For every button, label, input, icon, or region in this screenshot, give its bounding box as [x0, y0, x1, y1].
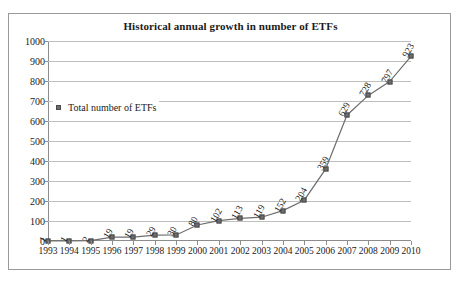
x-axis-tick-label: 1993: [39, 246, 58, 256]
x-axis-tick-mark: [326, 241, 327, 245]
x-axis-tick-mark: [197, 241, 198, 245]
x-axis-tick-label: 1994: [60, 246, 79, 256]
y-axis-tick-label: 400: [11, 156, 45, 167]
x-axis-tick-label: 2008: [359, 246, 378, 256]
y-axis-tick-label: 700: [11, 96, 45, 107]
chart-title: Historical annual growth in number of ET…: [9, 20, 452, 32]
x-axis-tick-label: 2000: [188, 246, 207, 256]
x-axis-tick-label: 2005: [295, 246, 314, 256]
x-axis-tick-mark: [390, 241, 391, 245]
chart-legend: Total number of ETFs: [53, 101, 159, 114]
x-axis-tick-mark: [240, 241, 241, 245]
x-axis-tick-label: 1997: [124, 246, 143, 256]
y-axis-tick-label: 1000: [11, 36, 45, 47]
y-axis-tick-label: 600: [11, 116, 45, 127]
x-axis-tick-label: 2001: [209, 246, 228, 256]
x-axis-tick-mark: [283, 241, 284, 245]
x-axis-tick-mark: [133, 241, 134, 245]
y-axis-tick-label: 300: [11, 176, 45, 187]
x-axis-tick-mark: [91, 241, 92, 245]
x-axis-tick-mark: [69, 241, 70, 245]
x-axis-tick-mark: [368, 241, 369, 245]
x-axis-tick-mark: [48, 241, 49, 245]
chart-figure: Historical annual growth in number of ET…: [8, 13, 451, 270]
x-axis-tick-mark: [176, 241, 177, 245]
legend-item-label: Total number of ETFs: [68, 102, 156, 113]
x-axis-tick-mark: [219, 241, 220, 245]
plot-area: 1121919293080102113119152204359629728797…: [48, 41, 411, 241]
x-axis-tick-label: 2004: [273, 246, 292, 256]
x-axis-tick-label: 1999: [167, 246, 186, 256]
x-axis-tick-label: 2002: [231, 246, 250, 256]
y-axis-tick-label: 200: [11, 196, 45, 207]
x-axis-tick-mark: [112, 241, 113, 245]
x-axis-tick-label: 2007: [337, 246, 356, 256]
x-axis-tick-label: 1995: [81, 246, 100, 256]
x-axis-tick-mark: [347, 241, 348, 245]
y-axis-tick-label: 100: [11, 216, 45, 227]
x-axis-tick-label: 2006: [316, 246, 335, 256]
y-axis-tick-label: 500: [11, 136, 45, 147]
x-axis-tick-mark: [304, 241, 305, 245]
y-axis-tick-label: 800: [11, 76, 45, 87]
x-axis-tick-mark: [262, 241, 263, 245]
series-line-total-number-of-etfs: [48, 41, 411, 241]
x-axis-tick-label: 2010: [402, 246, 421, 256]
x-axis-tick-label: 2009: [380, 246, 399, 256]
x-axis-tick-mark: [411, 241, 412, 245]
x-axis-tick-mark: [155, 241, 156, 245]
x-axis-tick-label: 1996: [103, 246, 122, 256]
x-axis-tick-label: 1998: [145, 246, 164, 256]
y-axis: 01002003004005006007008009001000: [8, 41, 45, 241]
x-axis-tick-label: 2003: [252, 246, 271, 256]
y-axis-tick-label: 900: [11, 56, 45, 67]
square-marker-icon: [56, 105, 61, 110]
